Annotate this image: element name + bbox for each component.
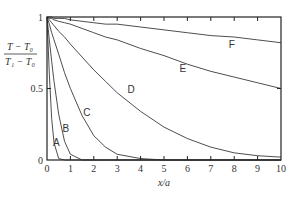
curve-label-e: E: [179, 63, 186, 74]
x-tick-label: 5: [162, 163, 167, 174]
y-tick-label: 1: [38, 12, 43, 23]
x-tick-label: 10: [276, 163, 286, 174]
x-tick-label: 4: [138, 163, 143, 174]
curve-label-a: A: [53, 137, 60, 148]
x-tick-label: 1: [68, 163, 73, 174]
x-tick-label: 3: [115, 163, 120, 174]
x-tick-label: 2: [91, 163, 96, 174]
x-tick-label: 7: [208, 163, 213, 174]
x-tick-labels: 012345678910: [45, 163, 287, 174]
y-axis-label: T − T₀ T₁ − T₀: [4, 41, 37, 67]
curve-e: [47, 17, 281, 89]
curve-label-f: F: [229, 39, 235, 50]
curves: [47, 17, 281, 160]
y-tick-label: 0: [38, 155, 43, 166]
x-tick-label: 9: [255, 163, 260, 174]
y-axis-label-denominator: T₁ − T₀: [5, 56, 35, 67]
temperature-profile-chart: 012345678910 00.51 ABCDEF x/a T − T₀ T₁ …: [0, 0, 301, 197]
x-tick-label: 6: [185, 163, 190, 174]
curve-label-b: B: [62, 123, 69, 134]
y-tick-labels: 00.51: [31, 12, 44, 166]
y-tick-label: 0.5: [31, 83, 44, 94]
y-axis-label-numerator: T − T₀: [7, 41, 34, 52]
curve-label-d: D: [128, 84, 135, 95]
x-axis-label: x/a: [157, 177, 170, 188]
curve-label-c: C: [83, 107, 90, 118]
x-tick-label: 0: [45, 163, 50, 174]
x-tick-label: 8: [232, 163, 237, 174]
